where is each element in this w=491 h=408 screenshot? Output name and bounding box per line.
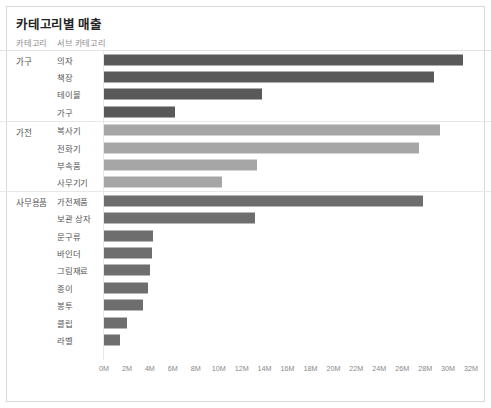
bar[interactable] (104, 106, 175, 117)
chart-row[interactable]: 가구 (0, 103, 491, 120)
bar-track (104, 244, 471, 261)
bar-track (104, 86, 471, 103)
bar[interactable] (104, 247, 152, 258)
plot-area: 가구의자책장테이블가구가전복사기전화기부속품사무기기사무용품가전제품보관 상자문… (0, 50, 491, 360)
row-label: 사무기기 (57, 176, 88, 188)
bar-track (104, 314, 471, 331)
group-rows: 가전제품보관 상자문구류바인더그림재료종이봉투클립라벨 (0, 192, 491, 349)
axis-tick-label: 2M (122, 364, 132, 373)
row-label: 그림재료 (57, 264, 88, 276)
column-header-row: 카테고리 서브 카테고리 (0, 36, 491, 50)
bar[interactable] (104, 160, 257, 171)
chart-row[interactable]: 문구류 (0, 227, 491, 244)
chart-row[interactable]: 그림재료 (0, 262, 491, 279)
bar-track (104, 51, 471, 68)
axis-tick-label: 28M (418, 364, 432, 373)
chart-row[interactable]: 가전제품 (0, 192, 491, 209)
bar[interactable] (104, 300, 143, 311)
bar-track (104, 156, 471, 173)
row-label: 봉투 (57, 299, 73, 311)
row-label: 테이블 (57, 88, 80, 100)
bar-group: 가전복사기전화기부속품사무기기 (0, 121, 491, 192)
bar[interactable] (104, 142, 419, 153)
axis-tick-label: 0M (99, 364, 109, 373)
row-label: 클립 (57, 317, 73, 329)
bar-track (104, 331, 471, 348)
axis-tick-label: 24M (372, 364, 386, 373)
chart-row[interactable]: 클립 (0, 314, 491, 331)
bar[interactable] (104, 230, 153, 241)
bar[interactable] (104, 334, 120, 345)
row-label: 전화기 (57, 142, 80, 154)
bar-track (104, 192, 471, 209)
chart-row[interactable]: 전화기 (0, 139, 491, 156)
axis-tick-label: 16M (281, 364, 295, 373)
chart-row[interactable]: 부속품 (0, 156, 491, 173)
bar[interactable] (104, 177, 222, 188)
bar-track (104, 68, 471, 85)
axis-tick-label: 20M (326, 364, 340, 373)
bar-track (104, 227, 471, 244)
bar-group: 사무용품가전제품보관 상자문구류바인더그림재료종이봉투클립라벨 (0, 191, 491, 349)
row-label: 종이 (57, 282, 73, 294)
axis-tick-label: 32M (464, 364, 478, 373)
axis-tick-label: 30M (441, 364, 455, 373)
bar-track (104, 103, 471, 120)
axis-tick-label: 14M (258, 364, 272, 373)
chart-row[interactable]: 사무기기 (0, 174, 491, 191)
row-label: 보관 상자 (57, 212, 90, 224)
x-axis: 0M2M4M6M8M10M12M14M16M18M20M22M24M26M28M… (104, 360, 471, 380)
chart-row[interactable]: 종이 (0, 279, 491, 296)
chart-row[interactable]: 복사기 (0, 122, 491, 139)
chart-title: 카테고리별 매출 (16, 14, 102, 33)
row-label: 책장 (57, 71, 73, 83)
bar[interactable] (104, 317, 127, 328)
bar-track (104, 296, 471, 313)
bar[interactable] (104, 213, 255, 224)
chart-container: 카테고리별 매출 카테고리 서브 카테고리 가구의자책장테이블가구가전복사기전화… (0, 0, 491, 408)
bar-track (104, 279, 471, 296)
bar[interactable] (104, 195, 423, 206)
row-label: 의자 (57, 54, 73, 66)
bar[interactable] (104, 89, 262, 100)
chart-row[interactable]: 바인더 (0, 244, 491, 261)
axis-tick-label: 18M (303, 364, 317, 373)
axis-tick-label: 26M (395, 364, 409, 373)
bar-track (104, 122, 471, 139)
group-rows: 의자책장테이블가구 (0, 51, 491, 121)
axis-tick-label: 8M (191, 364, 201, 373)
chart-row[interactable]: 테이블 (0, 86, 491, 103)
axis-tick-label: 22M (349, 364, 363, 373)
axis-tick-label: 4M (145, 364, 155, 373)
row-label: 가전제품 (57, 195, 88, 207)
row-label: 라벨 (57, 334, 73, 346)
row-label: 바인더 (57, 247, 80, 259)
column-header-category: 카테고리 (16, 36, 47, 48)
group-rows: 복사기전화기부속품사무기기 (0, 122, 491, 192)
bar[interactable] (104, 125, 440, 136)
axis-tick-label: 12M (235, 364, 249, 373)
row-label: 부속품 (57, 159, 80, 171)
axis-tick-label: 6M (168, 364, 178, 373)
column-header-subcategory: 서브 카테고리 (57, 36, 106, 48)
chart-row[interactable]: 책장 (0, 68, 491, 85)
bar-track (104, 210, 471, 227)
bar-track (104, 139, 471, 156)
bar-track (104, 174, 471, 191)
row-label: 문구류 (57, 230, 80, 242)
bar[interactable] (104, 72, 434, 83)
row-label: 가구 (57, 106, 73, 118)
chart-row[interactable]: 라벨 (0, 331, 491, 348)
row-label: 복사기 (57, 124, 80, 136)
chart-row[interactable]: 의자 (0, 51, 491, 68)
chart-row[interactable]: 보관 상자 (0, 210, 491, 227)
bar-group: 가구의자책장테이블가구 (0, 50, 491, 121)
bar[interactable] (104, 282, 148, 293)
bar[interactable] (104, 265, 150, 276)
bar[interactable] (104, 54, 463, 65)
axis-tick-label: 10M (212, 364, 226, 373)
bar-track (104, 262, 471, 279)
chart-row[interactable]: 봉투 (0, 296, 491, 313)
